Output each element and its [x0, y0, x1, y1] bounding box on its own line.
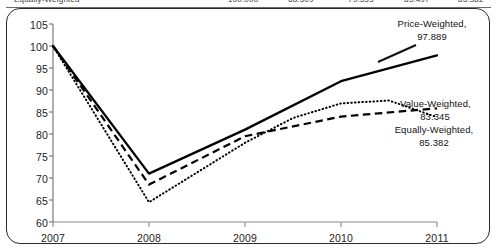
annotation-value-weighted: Value-Weighted, 83.345: [400, 98, 496, 123]
price-weighted-leader-line: [378, 45, 416, 62]
annotation-price-weighted-value: 97.889: [378, 31, 486, 44]
y-axis-ticks: [49, 24, 53, 222]
series-equally-weighted: [53, 46, 437, 185]
annotation-price-weighted-name: Price-Weighted,: [398, 18, 467, 29]
annotation-equally-weighted-name: Equally-Weighted,: [395, 124, 474, 135]
annotation-value-weighted-name: Value-Weighted,: [400, 98, 471, 109]
annotation-equally-weighted-value: 85.382: [378, 137, 490, 150]
chart-figure: Equally-Weighted 100.000 68.509 79.533 8…: [0, 0, 497, 252]
annotation-value-weighted-value: 83.345: [400, 111, 496, 124]
annotation-equally-weighted: Equally-Weighted, 85.382: [378, 124, 490, 149]
x-axis-ticks: [53, 222, 437, 227]
series-price-weighted: [53, 46, 437, 174]
annotation-price-weighted: Price-Weighted, 97.889: [378, 18, 486, 43]
plot-area: 105 100 95 90 85 80 75 70 65 60 2007 200…: [0, 0, 497, 252]
